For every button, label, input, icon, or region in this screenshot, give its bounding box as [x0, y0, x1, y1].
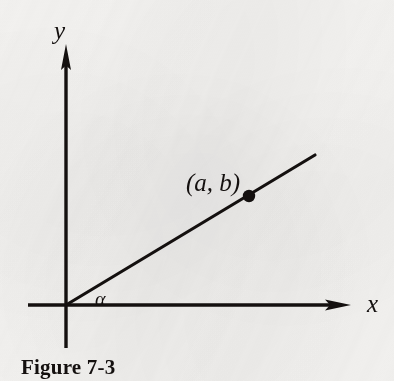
x-axis-label: x: [367, 291, 378, 316]
angle-alpha-label: α: [95, 289, 106, 309]
y-axis-label: y: [54, 18, 65, 43]
figure-canvas: y x α (a, b) Figure 7-3: [0, 0, 394, 381]
figure-caption: Figure 7-3: [21, 357, 115, 378]
point-coordinates-label: (a, b): [186, 170, 240, 195]
point-marker-dot: [243, 190, 255, 202]
